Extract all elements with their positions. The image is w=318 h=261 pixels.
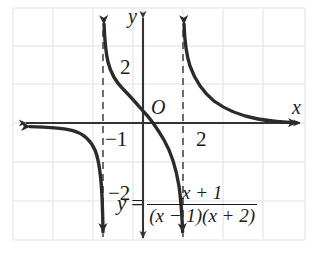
y-tick-label-2: 2 (120, 57, 131, 78)
equation-equals-sign: = (131, 193, 143, 214)
rational-function-graph-figure: y x O 2 −2 −1 2 y = x + 1 (x − 1)(x + 2) (0, 0, 318, 261)
equation-denominator: (x − 1)(x + 2) (147, 205, 257, 226)
origin-label: O (151, 97, 165, 117)
equation-numerator: x + 1 (176, 183, 228, 204)
curve-right-branch (184, 24, 297, 123)
x-tick-label-negative-1: −1 (105, 129, 127, 150)
x-tick-label-2: 2 (196, 129, 207, 150)
equation-lhs: y (117, 193, 126, 214)
equation-fraction: x + 1 (x − 1)(x + 2) (147, 183, 257, 226)
curve-left-branch (30, 127, 103, 232)
function-equation: y = x + 1 (x − 1)(x + 2) (117, 182, 257, 225)
x-axis-label: x (292, 97, 301, 117)
y-axis-label: y (128, 6, 137, 26)
